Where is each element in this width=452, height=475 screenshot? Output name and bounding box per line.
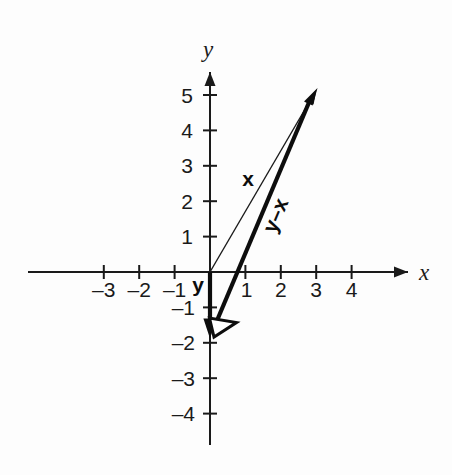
y-tick-label-1: 1 bbox=[181, 225, 193, 248]
y-axis-label: y bbox=[201, 37, 214, 62]
y-axis-tick-labels: 5 4 3 2 1 –1 –2 –3 –4 bbox=[172, 84, 196, 426]
vector-x bbox=[210, 90, 317, 273]
vector-diagram-figure: –3 –2 –1 1 2 3 4 5 4 3 2 1 –1 –2 –3 –4 x… bbox=[0, 0, 452, 475]
vector-y-minus-x-tail-hollow-arrowhead bbox=[210, 318, 237, 337]
y-tick-label--1: –1 bbox=[172, 296, 195, 319]
x-tick-label--2: –2 bbox=[128, 278, 151, 301]
vector-y-minus-x-arrowhead bbox=[304, 88, 318, 106]
y-tick-label-4: 4 bbox=[181, 119, 193, 142]
x-axis-label: x bbox=[418, 260, 430, 285]
y-tick-label--2: –2 bbox=[172, 331, 195, 354]
y-tick-label--4: –4 bbox=[172, 402, 196, 425]
vector-y-minus-x-shaft bbox=[213, 100, 310, 330]
coordinate-plane-svg: –3 –2 –1 1 2 3 4 5 4 3 2 1 –1 –2 –3 –4 x… bbox=[0, 0, 452, 475]
x-tick-label-1: 1 bbox=[241, 278, 253, 301]
x-tick-label-4: 4 bbox=[346, 278, 358, 301]
y-axis-arrowhead bbox=[205, 72, 216, 86]
vector-y-label: y bbox=[192, 273, 204, 296]
y-tick-label-5: 5 bbox=[181, 84, 193, 107]
vector-x-shaft bbox=[210, 99, 311, 272]
vector-x-label: x bbox=[242, 167, 254, 190]
y-tick-label-3: 3 bbox=[181, 154, 193, 177]
x-tick-label-2: 2 bbox=[275, 278, 287, 301]
x-tick-label-3: 3 bbox=[310, 278, 322, 301]
y-tick-label-2: 2 bbox=[181, 190, 193, 213]
vector-y-minus-x-label: y–x bbox=[258, 194, 293, 236]
y-tick-label--3: –3 bbox=[172, 367, 195, 390]
x-tick-label--3: –3 bbox=[92, 278, 115, 301]
x-axis-arrowhead bbox=[394, 267, 408, 278]
